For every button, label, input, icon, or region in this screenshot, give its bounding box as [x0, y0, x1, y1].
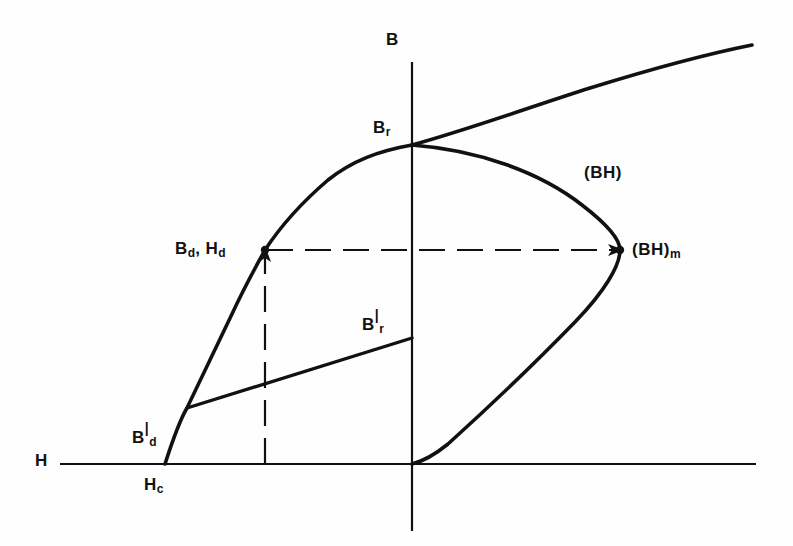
- h-axis-label: H: [35, 452, 48, 469]
- operating-point-dot: [261, 246, 269, 254]
- energy-product-label: (BH): [584, 164, 622, 181]
- bh-upper-branch-curve: [412, 45, 752, 145]
- recoil-bd-label: B|d: [132, 424, 157, 446]
- diagram-canvas: [0, 0, 793, 546]
- recoil-remanence-label: B|r: [362, 311, 384, 333]
- remanence-label: Br: [373, 119, 390, 136]
- figure-root: B Br Bd, Hd (BH) (BH)m B|r B|d H Hc: [0, 0, 793, 546]
- max-energy-product-dot: [616, 246, 624, 254]
- energy-product-curve: [412, 145, 620, 464]
- max-energy-product-label: (BH)m: [632, 241, 681, 258]
- recoil-line: [187, 338, 412, 408]
- demagnetization-curve: [165, 145, 412, 464]
- coercivity-label: Hc: [144, 476, 163, 493]
- operating-point-label: Bd, Hd: [175, 240, 226, 257]
- b-axis-label: B: [386, 31, 399, 48]
